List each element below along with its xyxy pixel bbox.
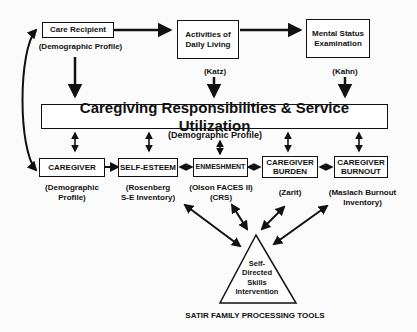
satir-caption: SATIR FAMILY PROCESSING TOOLS bbox=[170, 311, 340, 321]
adl-sub: (Katz) bbox=[195, 67, 235, 77]
central-box: Caregiving Responsibilities & Service Ut… bbox=[41, 104, 388, 129]
caregiver-box: CAREGIVER bbox=[39, 158, 105, 177]
central-sub: (Demographic Profile) bbox=[155, 130, 275, 141]
care-recipient-box: Care Recipient bbox=[42, 22, 114, 38]
adl-box: Activities of Daily Living bbox=[177, 20, 239, 59]
caregiver-burnout-sub: (Maslach Burnout Inventory) bbox=[320, 188, 405, 207]
enmeshment-sub: (Olson FACES II) (CRS) bbox=[185, 183, 257, 202]
mental-status-sub: (Kahn) bbox=[320, 67, 370, 77]
mental-status-box: Mental Status Examination bbox=[306, 19, 370, 58]
diagram-canvas: Care Recipient (Demographic Profile) Act… bbox=[0, 0, 417, 332]
caregiver-burnout-box: CAREGIVER BURNOUT bbox=[334, 156, 388, 178]
self-esteem-box: SELF-ESTEEM bbox=[118, 158, 178, 177]
care-recipient-sub: (Demographic Profile) bbox=[33, 42, 128, 52]
caregiver-burden-sub: (Zarit) bbox=[270, 188, 310, 198]
caregiver-burden-box: CAREGIVER BURDEN bbox=[262, 156, 318, 178]
enmeshment-box: ENMESHMENT bbox=[193, 158, 248, 177]
caregiver-sub: (Demographic Profile) bbox=[37, 183, 107, 202]
intervention-label: Self- Directed Skills Intervention bbox=[221, 259, 293, 297]
self-esteem-sub: (Rosenberg S-E Inventory) bbox=[108, 183, 188, 202]
